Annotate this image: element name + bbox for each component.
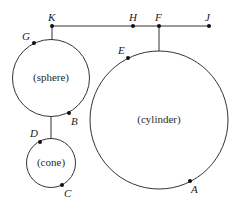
point-j-label: J <box>205 11 211 23</box>
point-f-label: F <box>154 11 162 23</box>
point-d-label: D <box>29 127 38 139</box>
point-h-dot <box>131 24 135 28</box>
point-j-dot <box>207 24 211 28</box>
point-g-dot <box>32 41 36 45</box>
point-k-dot <box>50 24 54 28</box>
point-d-dot <box>38 140 42 144</box>
point-k-label: K <box>47 11 56 23</box>
cone-label: (cone) <box>37 156 65 169</box>
point-h-label: H <box>128 11 138 23</box>
linkage-diagram: (sphere) (cone) (cylinder) K H F J G B D… <box>0 0 239 210</box>
point-f-dot <box>157 24 161 28</box>
point-g-label: G <box>22 30 30 42</box>
point-e-dot <box>126 56 130 60</box>
point-a-label: A <box>190 183 198 195</box>
point-b-label: B <box>71 115 78 127</box>
point-e-label: E <box>117 44 125 56</box>
point-c-label: C <box>64 187 72 199</box>
sphere-label: (sphere) <box>33 71 69 84</box>
cylinder-label: (cylinder) <box>137 113 181 126</box>
